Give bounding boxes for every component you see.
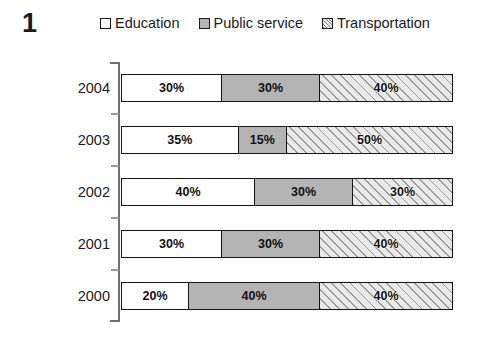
segment-value: 30% [258,237,283,251]
segment-value: 30% [390,185,415,199]
stacked-bar[interactable]: 40% 30% 30% [121,178,453,206]
row-year-label: 2001 [58,230,110,258]
segment-value: 30% [159,81,184,95]
bar-segment-transportation[interactable]: 40% [320,283,452,309]
axis-cap-bottom [110,320,120,322]
stacked-bar[interactable]: 20% 40% 40% [121,282,453,310]
segment-value: 40% [373,81,398,95]
bar-segment-education[interactable]: 35% [122,127,238,153]
bar-segment-public-service[interactable]: 40% [188,283,320,309]
row-year-label: 2000 [58,282,110,310]
segment-value: 35% [167,133,192,147]
segment-value: 30% [258,81,283,95]
bar-segment-education[interactable]: 40% [122,179,254,205]
bar-segment-education[interactable]: 30% [122,231,221,257]
stacked-bar[interactable]: 30% 30% 40% [121,74,453,102]
segment-value: 30% [159,237,184,251]
stacked-bar[interactable]: 35% 15% 50% [121,126,453,154]
category-axis-line [118,62,120,322]
segment-value: 30% [291,185,316,199]
segment-value: 20% [142,289,167,303]
stacked-bar[interactable]: 30% 30% 40% [121,230,453,258]
bar-segment-public-service[interactable]: 30% [221,231,320,257]
row-year-label: 2003 [58,126,110,154]
axis-tick [111,113,119,115]
segment-value: 40% [241,289,266,303]
bar-segment-public-service[interactable]: 15% [238,127,288,153]
row-year-label: 2004 [58,74,110,102]
bar-segment-transportation[interactable]: 50% [287,127,452,153]
bar-segment-education[interactable]: 20% [122,283,188,309]
axis-tick [111,217,119,219]
axis-tick [111,165,119,167]
bar-segment-transportation[interactable]: 40% [320,231,452,257]
segment-value: 15% [250,133,275,147]
bar-segment-transportation[interactable]: 30% [353,179,452,205]
stacked-bar-chart: 2004 30% 30% 40% 2003 35% 15% 50% [0,0,500,342]
bar-segment-transportation[interactable]: 40% [320,75,452,101]
bar-segment-public-service[interactable]: 30% [254,179,353,205]
segment-value: 40% [175,185,200,199]
segment-value: 50% [357,133,382,147]
bar-segment-education[interactable]: 30% [122,75,221,101]
axis-tick [111,269,119,271]
segment-value: 40% [373,237,398,251]
bar-segment-public-service[interactable]: 30% [221,75,320,101]
segment-value: 40% [373,289,398,303]
row-year-label: 2002 [58,178,110,206]
